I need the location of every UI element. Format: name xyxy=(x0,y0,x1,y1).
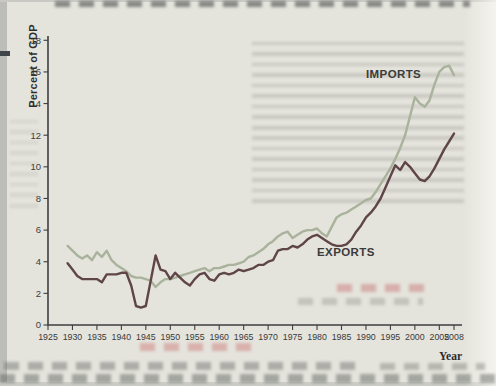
y-tick-label: 12 xyxy=(30,130,41,141)
imports-series-label: IMPORTS xyxy=(366,68,421,80)
x-tick-label: 2000 xyxy=(405,332,425,342)
x-tick-label: 1955 xyxy=(185,332,205,342)
x-tick-label: 1985 xyxy=(332,332,352,342)
x-tick-label: 1975 xyxy=(283,332,303,342)
x-tick-label: 1940 xyxy=(112,332,132,342)
x-tick-label: 1990 xyxy=(356,332,376,342)
x-tick-label: 1970 xyxy=(258,332,278,342)
x-tick-label: 1965 xyxy=(234,332,254,342)
x-tick-label: 1950 xyxy=(161,332,181,342)
y-tick-label: 2 xyxy=(36,288,41,299)
x-tick-label: 1980 xyxy=(307,332,327,342)
y-tick-label: 8 xyxy=(36,193,41,204)
y-tick-label: 10 xyxy=(30,161,41,172)
x-tick-label: 1925 xyxy=(38,332,58,342)
x-tick-label: 1935 xyxy=(87,332,107,342)
y-tick-label: 4 xyxy=(36,256,41,267)
x-tick-label: 2008 xyxy=(444,332,464,342)
x-tick-label: 1930 xyxy=(63,332,83,342)
y-tick-label: 0 xyxy=(36,319,41,330)
imports-line xyxy=(68,66,454,287)
x-tick-label: 1960 xyxy=(209,332,229,342)
x-axis-title: Year xyxy=(402,350,462,362)
trade-share-chart-svg: 0246810121416181925193019351940194519501… xyxy=(0,0,496,386)
y-tick-label: 6 xyxy=(36,224,41,235)
x-tick-label: 1995 xyxy=(381,332,401,342)
exports-series-label: EXPORTS xyxy=(317,246,375,258)
x-tick-label: 1945 xyxy=(136,332,156,342)
y-axis-title: Percent of GDP xyxy=(27,21,39,111)
